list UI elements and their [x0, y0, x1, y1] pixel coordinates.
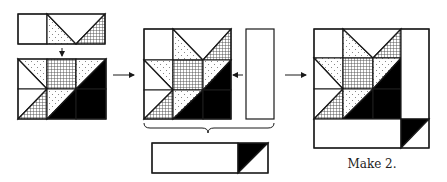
bottom-strip — [152, 143, 268, 173]
brace — [144, 123, 274, 133]
make-count-caption: Make 2. — [347, 157, 396, 171]
bottom-rows-unit — [18, 59, 106, 119]
side-strip — [246, 29, 274, 119]
star-block — [144, 29, 231, 119]
completed-block — [314, 29, 429, 148]
top-row-strip — [18, 14, 105, 44]
quilt-assembly-diagram — [0, 0, 447, 182]
